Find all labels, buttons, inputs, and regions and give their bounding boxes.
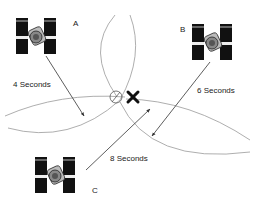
satellite-c-label: C xyxy=(92,187,98,195)
arc-c-right xyxy=(120,15,136,100)
arc-a-upper xyxy=(5,96,125,116)
arrow-a xyxy=(46,56,84,116)
trilateration-diagram xyxy=(0,0,254,204)
satellite-a-icon xyxy=(16,18,56,54)
time-label-a: 4 Seconds xyxy=(13,81,51,89)
time-label-c: 8 Seconds xyxy=(110,155,148,163)
satellite-b-label: B xyxy=(180,26,185,34)
arc-b-upper xyxy=(126,99,250,140)
time-label-b: 6 Seconds xyxy=(197,87,235,95)
receiver-x-icon xyxy=(128,92,138,102)
satellite-a-label: A xyxy=(73,20,78,28)
signal-arrows xyxy=(46,56,210,170)
arc-a-lower xyxy=(8,100,120,133)
satellite-b-icon xyxy=(192,24,232,60)
arc-c-left xyxy=(100,15,117,97)
satellite-c-icon xyxy=(35,157,75,193)
arrow-b xyxy=(152,62,210,136)
